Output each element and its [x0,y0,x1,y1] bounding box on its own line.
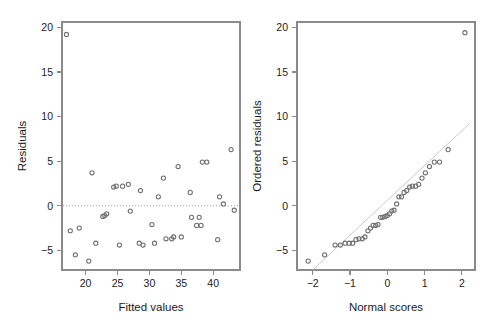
y-tick-label: −5 [276,244,288,256]
data-point [189,215,193,219]
data-point [94,241,98,245]
data-point [73,253,77,257]
y-axis-title: Residuals [16,121,28,172]
x-tick-label: 2 [459,277,465,289]
data-point [68,229,72,233]
data-point [197,215,201,219]
data-point [90,171,94,175]
y-tick-label: 5 [47,155,53,167]
data-point [217,195,221,199]
y-tick-label: 15 [276,66,288,78]
data-point [200,160,204,164]
panel-normal-qq-plot: −505101520−2−1012Normal scoresOrdered re… [251,21,475,313]
x-tick-label: 0 [384,277,390,289]
x-axis-title: Normal scores [349,301,423,313]
figure-container: −5051015202025303540Fitted valuesResidua… [0,0,500,326]
data-point [150,222,154,226]
y-tick-label: 15 [41,66,53,78]
x-tick-label: 25 [112,277,124,289]
data-point [188,190,192,194]
data-point [77,226,81,230]
x-tick-label: 1 [422,277,428,289]
y-axis-title: Ordered residuals [251,100,263,192]
data-point [176,164,180,168]
data-point [164,237,168,241]
data-point [221,202,225,206]
y-tick-label: 10 [276,110,288,122]
data-point [141,243,145,247]
plot-frame [62,22,240,270]
panel-residuals-vs-fitted: −5051015202025303540Fitted valuesResidua… [16,21,240,313]
data-point [161,176,165,180]
data-point [138,189,142,193]
x-tick-label: 35 [175,277,187,289]
data-point [463,31,467,35]
data-point [152,241,156,245]
x-axis-title: Fitted values [118,301,183,313]
qq-reference-line [313,124,470,270]
data-point [232,208,236,212]
data-point [121,184,125,188]
data-point [216,238,220,242]
data-point-group [64,32,236,263]
data-point [64,32,68,36]
data-point [427,164,431,168]
data-point [343,241,347,245]
y-tick-label: 20 [41,21,53,33]
y-tick-label: 10 [41,110,53,122]
data-point [395,202,399,206]
y-tick-label: 20 [276,21,288,33]
data-point-group [306,31,467,264]
x-tick-label: 40 [207,277,219,289]
data-point [408,185,412,189]
y-tick-label: 0 [282,200,288,212]
y-tick-label: 5 [282,155,288,167]
data-point [423,171,427,175]
data-point [195,223,199,227]
y-tick-label: 0 [47,200,53,212]
x-tick-label: −2 [307,277,319,289]
data-point [128,209,132,213]
data-point [229,147,233,151]
data-point [156,195,160,199]
data-point [446,147,450,151]
x-tick-label: 30 [144,277,156,289]
data-point [205,160,209,164]
data-point [306,259,310,263]
data-point [117,243,121,247]
data-point [323,253,327,257]
scatter-plot-figure: −5051015202025303540Fitted valuesResidua… [0,0,500,326]
data-point [126,182,130,186]
data-point [437,160,441,164]
x-tick-label: 20 [80,277,92,289]
y-tick-label: −5 [41,244,53,256]
data-point [87,259,91,263]
data-point [179,235,183,239]
data-point [420,176,424,180]
data-point [432,160,436,164]
plot-frame [297,22,475,270]
data-point [199,223,203,227]
x-tick-label: −1 [344,277,356,289]
data-point [333,243,337,247]
